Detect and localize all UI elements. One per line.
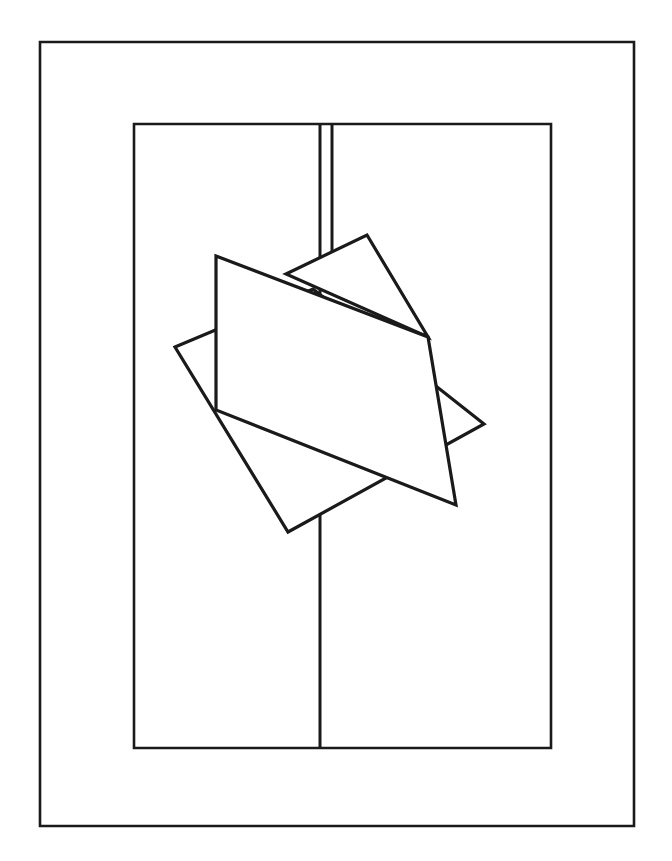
line-drawing-figure [0, 0, 672, 861]
drawing-canvas: Black-and-white line art: an outer recta… [0, 0, 672, 861]
